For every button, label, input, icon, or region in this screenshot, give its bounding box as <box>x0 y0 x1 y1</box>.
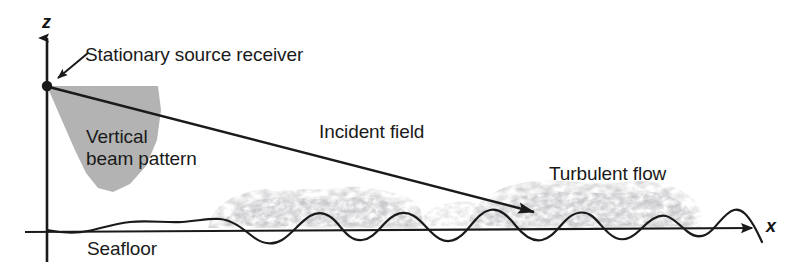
z-axis-label: z <box>42 12 51 33</box>
turbulent-flow-label: Turbulent flow <box>549 163 666 185</box>
diagram-canvas: z x Stationary source receiver Vertical … <box>0 0 795 278</box>
stationary-source-receiver-label: Stationary source receiver <box>85 44 303 66</box>
source-leader-line <box>58 53 88 78</box>
source-point-dot <box>42 81 52 91</box>
vertical-beam-pattern-label-line2: beam pattern <box>86 148 197 169</box>
turbulent-flow-cloud <box>208 181 702 228</box>
x-axis-label: x <box>766 216 776 237</box>
vertical-beam-pattern-label: Vertical beam pattern <box>86 126 197 170</box>
vertical-beam-pattern-label-line1: Vertical <box>86 126 148 147</box>
x-axis-line <box>25 228 752 232</box>
incident-field-label: Incident field <box>319 121 424 143</box>
seafloor-label: Seafloor <box>87 238 157 260</box>
stationary-source-receiver-marker <box>42 53 88 91</box>
